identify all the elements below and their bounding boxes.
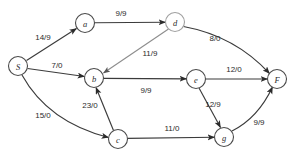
edge-label-a-d: 9/9 <box>115 9 127 18</box>
edge-label-e-g: 12/9 <box>205 100 221 109</box>
node-label-a: a <box>83 19 87 29</box>
edges-layer <box>22 22 273 138</box>
edge-c-b <box>96 88 114 131</box>
node-F: F <box>268 70 287 89</box>
edge-label-d-b: 11/9 <box>143 49 159 58</box>
edge-labels-layer: 14/99/98/011/97/09/912/015/023/011/012/9… <box>35 9 265 133</box>
edge-label-b-e: 9/9 <box>140 86 152 95</box>
edge-label-e-F: 12/0 <box>226 65 242 74</box>
edge-g-F <box>232 87 273 131</box>
edge-label-g-F: 9/9 <box>253 118 265 127</box>
edge-label-d-F: 8/0 <box>209 34 221 43</box>
edge-c-g <box>128 137 215 138</box>
node-b: b <box>85 69 104 88</box>
edge-S-b <box>28 69 85 77</box>
node-label-c: c <box>116 135 120 145</box>
edge-label-S-c: 15/0 <box>35 111 51 120</box>
node-a: a <box>76 14 95 33</box>
node-label-g: g <box>222 133 226 143</box>
network-diagram: SadbeFcg 14/99/98/011/97/09/912/015/023/… <box>0 0 292 159</box>
node-S: S <box>9 57 28 76</box>
node-d: d <box>166 13 185 32</box>
edge-S-a <box>27 29 77 61</box>
edge-label-S-a: 14/9 <box>35 33 51 42</box>
node-label-b: b <box>92 74 96 84</box>
node-e: e <box>187 70 206 89</box>
node-label-e: e <box>194 75 198 85</box>
node-label-F: F <box>273 75 280 85</box>
node-g: g <box>215 128 234 147</box>
edge-d-b <box>104 29 169 73</box>
node-c: c <box>109 130 128 149</box>
edge-label-S-b: 7/0 <box>51 61 63 70</box>
edge-a-d <box>95 22 166 23</box>
edge-label-c-g: 11/0 <box>165 124 181 133</box>
edge-label-c-b: 23/0 <box>82 101 98 110</box>
